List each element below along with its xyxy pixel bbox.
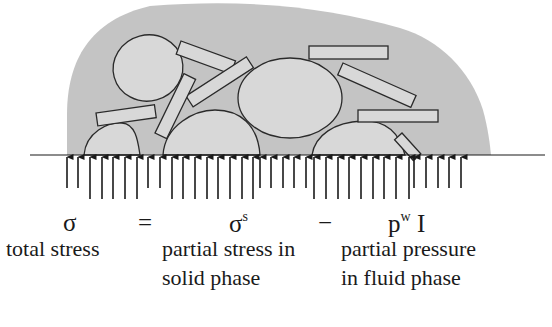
label-partial-stress-line2: solid phase	[162, 265, 260, 290]
identity-tensor: I	[411, 210, 426, 237]
label-total-stress: total stress	[6, 236, 100, 261]
equals-sign: =	[138, 210, 152, 235]
particle-rod	[309, 46, 388, 59]
particle-ellipse	[238, 58, 342, 138]
particle-rod	[358, 110, 438, 122]
label-partial-pressure-line2: in fluid phase	[341, 265, 461, 290]
label-partial-pressure-line1: partial pressure	[341, 236, 476, 261]
soil-particle-diagram	[0, 0, 552, 210]
fluid-pressure-symbol: pw I	[388, 210, 425, 236]
total-stress-symbol: σ	[63, 210, 76, 235]
solid-stress-base: σ	[229, 210, 242, 237]
label-partial-stress-line1: partial stress in	[162, 236, 295, 261]
solid-stress-arrows	[90, 157, 409, 199]
fluid-pressure-base: p	[388, 210, 401, 237]
solid-stress-symbol: σs	[229, 210, 248, 236]
fluid-pressure-arrows	[67, 157, 461, 188]
fluid-pressure-superscript: w	[401, 209, 411, 224]
solid-stress-superscript: s	[242, 209, 247, 224]
minus-sign: −	[318, 210, 332, 235]
